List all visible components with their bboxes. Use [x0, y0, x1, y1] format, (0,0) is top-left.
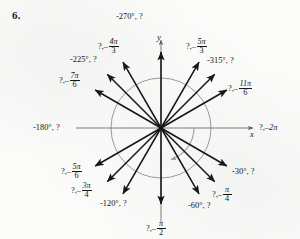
label-neg-pi-over-4: ?, – π 4	[212, 186, 232, 204]
minus-sign: –	[67, 168, 71, 177]
label-neg-180: -180°, ?	[33, 124, 60, 133]
two-pi-value: 2π	[269, 124, 277, 133]
label-neg-7pi-over-6: ?, – 7π 6	[59, 72, 80, 90]
fraction-5pi-3: 5π 3	[197, 38, 207, 56]
label-neg-pi-over-2: ?, – π 2	[146, 220, 166, 238]
label-neg-3pi-over-4: ?, – 3π 4	[71, 182, 92, 200]
rotation-arc	[171, 128, 194, 160]
fraction-pi-2: π 2	[157, 220, 166, 238]
minus-sign: –	[192, 43, 196, 52]
x-axis-label: x	[250, 129, 254, 139]
unit-circle-figure	[0, 0, 300, 239]
minus-sign: –	[65, 77, 69, 86]
fraction-11pi-6: 11π 6	[239, 80, 253, 98]
minus-sign: –	[234, 85, 238, 94]
minus-sign: –	[152, 225, 156, 234]
label-neg-11pi-over-6: ?, – 11π 6	[228, 80, 252, 98]
fraction-3pi-4: 3π 4	[82, 182, 92, 200]
label-neg-225: -225°, ?	[70, 56, 97, 65]
label-neg-2pi: ?, – 2π	[259, 124, 277, 133]
minus-sign: –	[77, 187, 81, 196]
label-neg-30: -30°, ?	[232, 168, 254, 177]
fraction-pi-4: π 4	[223, 186, 232, 204]
label-neg-5pi-over-3: ?, – 5π 3	[186, 38, 207, 56]
textbook-exercise-page: 6.	[0, 0, 300, 239]
fraction-4pi-3: 4π 3	[109, 38, 119, 56]
fraction-7pi-6: 7π 6	[70, 72, 80, 90]
fraction-5pi-6: 5π 6	[72, 163, 82, 181]
y-axis-label: y	[157, 32, 161, 42]
label-neg-5pi-over-6: ?, – 5π 6	[61, 163, 82, 181]
minus-sign: –	[104, 43, 108, 52]
minus-sign: –	[218, 191, 222, 200]
label-neg-270: -270°, ?	[116, 13, 143, 22]
label-neg-315: -315°, ?	[207, 57, 234, 66]
label-neg-4pi-over-3: ?, – 4π 3	[98, 38, 119, 56]
label-neg-60: -60°, ?	[188, 202, 210, 211]
label-neg-120: -120°, ?	[100, 200, 127, 209]
